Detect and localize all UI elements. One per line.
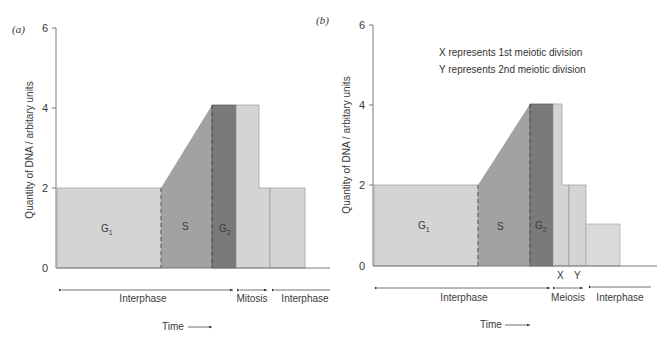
meiosis-y-region [569, 185, 586, 266]
s-region [161, 105, 212, 268]
y-axis-label: Quantity of DNA / arbitary units [24, 81, 35, 218]
meiosis-x-region [553, 104, 569, 266]
phase-interphase2-label: Interphase [281, 293, 329, 304]
y-label: Y [574, 270, 581, 281]
y-tick-2: 2 [42, 182, 48, 194]
y-tick-2: 2 [359, 179, 365, 191]
note-x: X represents 1st meiotic division [439, 47, 582, 58]
phase-interphase-label: Interphase [440, 292, 488, 303]
g1-region [57, 188, 161, 268]
s-label: S [497, 221, 504, 232]
time-label: Time [162, 321, 184, 332]
y-tick-6: 6 [42, 22, 48, 34]
phase-meiosis-label: Meiosis [551, 292, 585, 303]
s-label: S [182, 221, 189, 232]
time-label: Time [480, 319, 502, 330]
panel-a: (a) 6 4 2 0 Quantity of DNA / arbitary u… [12, 22, 330, 332]
mitosis-region [236, 105, 270, 268]
phase-mitosis-label: Mitosis [236, 293, 267, 304]
y-tick-4: 4 [359, 99, 365, 111]
g2-region [212, 105, 236, 268]
y-tick-0: 0 [359, 260, 365, 272]
panel-b-label: (b) [316, 14, 329, 27]
y-axis-label: Quantity of DNA / arbitary units [341, 76, 352, 213]
y-tick-6: 6 [359, 19, 365, 31]
g2-region [530, 104, 553, 266]
panel-a-label: (a) [12, 23, 25, 36]
note-y: Y represents 2nd meiotic division [439, 64, 586, 75]
interphase2-region [586, 224, 620, 266]
phase-interphase2-label: Interphase [596, 292, 644, 303]
dna-content-diagram: (a) 6 4 2 0 Quantity of DNA / arbitary u… [0, 0, 669, 344]
phase-interphase-label: Interphase [119, 293, 167, 304]
panel-b: (b) 6 4 2 0 Quantity of DNA / arbitary u… [316, 14, 657, 330]
s-region [478, 104, 530, 266]
y-tick-4: 4 [42, 102, 48, 114]
interphase2-region [270, 188, 305, 268]
y-tick-0: 0 [42, 262, 48, 274]
x-label: X [557, 270, 564, 281]
